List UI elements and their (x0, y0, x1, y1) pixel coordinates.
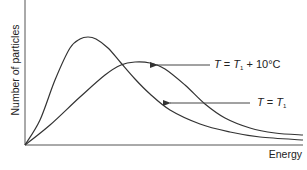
equals: = (221, 58, 234, 70)
var-t: T (257, 96, 264, 108)
annotation-t1: T = T1 (257, 96, 286, 109)
y-axis-label: Number of particles (9, 24, 21, 115)
curve-t1 (25, 37, 303, 145)
var-t: T (214, 58, 221, 70)
subscript: 1 (283, 103, 286, 109)
x-axis-label: Energy (269, 148, 302, 160)
var-t1: T (276, 96, 283, 108)
annotation-t1-plus-10c: T = T1 + 10°C (214, 58, 280, 71)
maxwell-boltzmann-chart (0, 0, 307, 170)
var-t1: T (233, 58, 240, 70)
equals: = (264, 96, 277, 108)
suffix: + 10°C (243, 58, 280, 70)
